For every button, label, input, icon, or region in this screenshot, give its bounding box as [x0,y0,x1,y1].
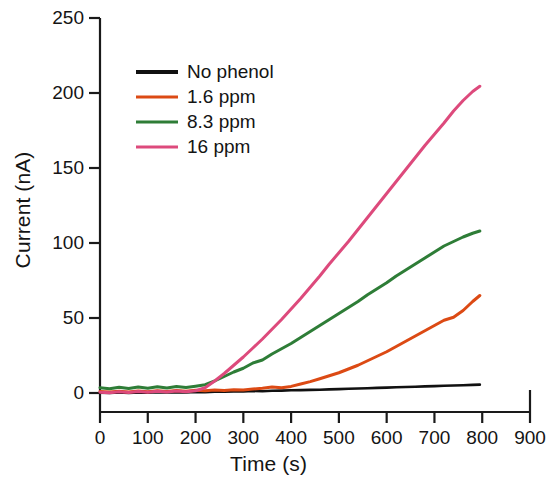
x-axis-tick-label: 600 [371,427,403,449]
data-series-group [100,86,480,393]
y-axis-tick-label: 200 [20,82,84,104]
x-axis-tick-label: 100 [132,427,164,449]
x-axis-tick-label: 400 [275,427,307,449]
x-axis-tick-label: 200 [180,427,212,449]
data-series-line [100,86,480,392]
y-axis-tick-label: 100 [20,232,84,254]
chart-figure: Current (nA) Time (s) 050100150200250010… [0,0,550,482]
y-axis-tick-label: 0 [20,382,84,404]
x-axis-tick-label: 900 [514,427,546,449]
y-axis-tick-label: 50 [20,307,84,329]
legend-label: No phenol [187,61,274,83]
y-axis-tick-label: 250 [20,7,84,29]
x-axis-tick-label: 500 [323,427,355,449]
legend-label: 1.6 ppm [187,86,256,108]
legend-swatch-group [136,72,178,147]
x-axis-tick-label: 300 [227,427,259,449]
axes-group [89,18,530,423]
legend-label: 8.3 ppm [187,111,256,133]
legend-label: 16 ppm [187,136,250,158]
x-axis-tick-label: 700 [419,427,451,449]
x-axis-title: Time (s) [230,452,307,476]
x-axis-tick-label: 0 [95,427,106,449]
y-axis-tick-label: 150 [20,157,84,179]
x-axis-tick-label: 800 [466,427,498,449]
